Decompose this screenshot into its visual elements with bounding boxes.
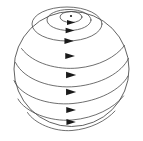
sphere-diagram-canvas [0, 0, 143, 141]
north-pole-dot [70, 15, 72, 17]
sphere-figure [0, 0, 143, 141]
